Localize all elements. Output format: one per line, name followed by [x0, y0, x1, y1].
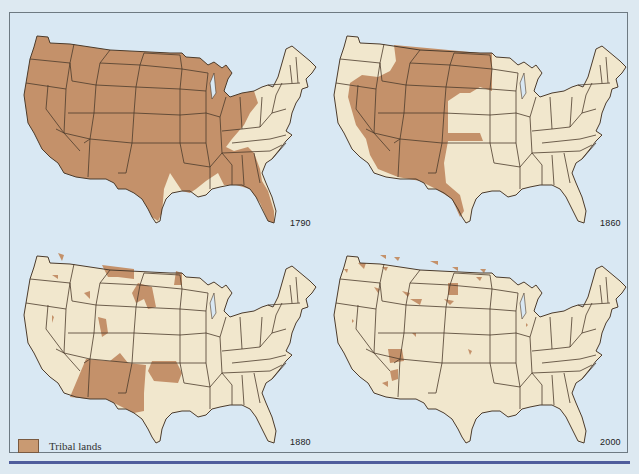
year-label: 1790 [290, 218, 311, 228]
tribal-land-area [480, 269, 486, 273]
map-panel-1880: 1880 [10, 233, 319, 452]
map-panel-1860: 1860 [320, 13, 629, 232]
year-label: 1860 [600, 218, 621, 228]
tribal-land-area [394, 257, 400, 261]
tribal-land-area [380, 255, 386, 259]
year-label: 1880 [290, 437, 311, 447]
legend: Tribal lands [18, 439, 101, 453]
tribal-land-area [452, 267, 458, 271]
us-map-2000 [320, 233, 629, 452]
year-label: 2000 [600, 437, 621, 447]
us-map-1860 [320, 13, 629, 232]
map-panel-1790: 1790 [10, 13, 319, 232]
legend-label: Tribal lands [49, 440, 101, 452]
map-figure-frame: 1790 1860 1880 2000 Tribal lands [9, 12, 628, 453]
tribal-land-area [430, 261, 438, 265]
bottom-rule [9, 461, 630, 464]
us-map-1790 [10, 13, 319, 232]
tribal-land-area [58, 253, 64, 261]
top-strip [0, 0, 639, 11]
tribal-lands-swatch [18, 439, 39, 453]
map-panel-2000: 2000 [320, 233, 629, 452]
us-map-1880 [10, 233, 319, 452]
